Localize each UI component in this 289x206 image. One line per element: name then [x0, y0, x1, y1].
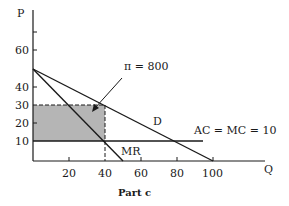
x-tick-60: 60: [134, 167, 148, 180]
y-tick-20: 20: [15, 117, 29, 130]
y-tick-30: 30: [15, 99, 29, 112]
x-tick-20: 20: [62, 167, 76, 180]
caption: Part c: [118, 187, 151, 198]
cost-label: AC = MC = 10: [193, 124, 276, 137]
mr-label: MR: [121, 145, 141, 158]
y-tick-10: 10: [15, 135, 29, 148]
q-axis-label: Q: [264, 163, 273, 176]
x-tick-40: 40: [98, 167, 112, 180]
profit-arrow: [95, 78, 122, 108]
x-tick-100: 100: [202, 167, 223, 180]
demand-label: D: [153, 115, 162, 128]
profit-label: π = 800: [124, 60, 168, 73]
y-tick-60: 60: [15, 44, 29, 57]
x-tick-80: 80: [170, 167, 184, 180]
monopoly-diagram: P Q 60 40 30 20 10 20 40 60 80 100 π = 8…: [0, 0, 289, 206]
y-tick-40: 40: [15, 81, 29, 94]
p-axis-label: P: [17, 7, 25, 20]
